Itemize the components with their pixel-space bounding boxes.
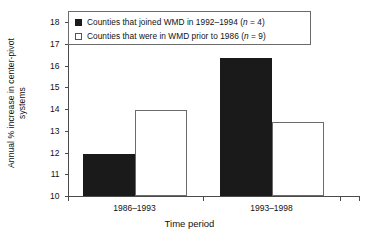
y-axis-tick-label: 17 <box>38 39 60 48</box>
legend-label-1-main: Counties that were in WMD prior to 1986 … <box>87 31 244 41</box>
legend-item-0[interactable]: Counties that joined WMD in 1992–1994 (n… <box>75 15 304 29</box>
x-axis-tick-label-1: 1993–1998 <box>250 203 293 213</box>
y-axis-tick-mark <box>65 87 68 88</box>
y-axis-tick-label: 18 <box>38 18 60 27</box>
y-axis-tick-label: 10 <box>38 192 60 201</box>
x-axis-tick-mark <box>68 197 69 201</box>
y-axis-tick-mark <box>65 153 68 154</box>
bar-series-0-group-0[interactable] <box>83 154 135 196</box>
y-axis-tick-label: 16 <box>38 61 60 70</box>
legend-label-1-tail: = 9) <box>249 31 266 41</box>
x-axis-tick-label-0: 1986–1993 <box>113 203 156 213</box>
x-axis-line <box>68 196 361 197</box>
x-axis-tick-mark <box>359 197 360 201</box>
y-axis-tick-mark <box>65 131 68 132</box>
bar-series-1-group-1[interactable] <box>272 122 324 196</box>
legend-label-0-main: Counties that joined WMD in 1992–1994 ( <box>87 17 243 27</box>
legend-label-1: Counties that were in WMD prior to 1986 … <box>87 32 266 41</box>
y-axis-title-line1: Annual % increase in center-pivot <box>6 38 16 168</box>
x-axis-tick-mark <box>203 197 204 201</box>
y-axis-tick-label: 11 <box>38 170 60 179</box>
y-axis-line <box>68 22 69 197</box>
y-axis-tick-label: 15 <box>38 83 60 92</box>
bar-series-0-group-1[interactable] <box>220 58 272 196</box>
legend-swatch-filled-icon <box>75 19 82 26</box>
legend-swatch-open-icon <box>75 33 82 40</box>
y-axis-tick-mark <box>65 174 68 175</box>
y-axis-tick-label: 12 <box>38 148 60 157</box>
y-axis-tick-label: 13 <box>38 126 60 135</box>
y-axis-title-line2: systems <box>17 38 28 168</box>
chart-legend: Counties that joined WMD in 1992–1994 (n… <box>68 11 311 45</box>
y-axis-tick-label: 14 <box>38 105 60 114</box>
legend-label-0-tail: = 4) <box>248 17 265 27</box>
legend-item-1[interactable]: Counties that were in WMD prior to 1986 … <box>75 29 304 43</box>
x-axis-tick-mark <box>340 197 341 201</box>
y-axis-tick-mark <box>65 109 68 110</box>
chart-figure: Annual % increase in center-pivot system… <box>0 0 379 244</box>
y-axis-tick-mark <box>65 66 68 67</box>
y-axis-title: Annual % increase in center-pivot system… <box>0 0 34 205</box>
legend-label-0: Counties that joined WMD in 1992–1994 (n… <box>87 18 265 27</box>
bar-series-1-group-0[interactable] <box>135 110 187 196</box>
x-axis-title: Time period <box>0 218 379 229</box>
